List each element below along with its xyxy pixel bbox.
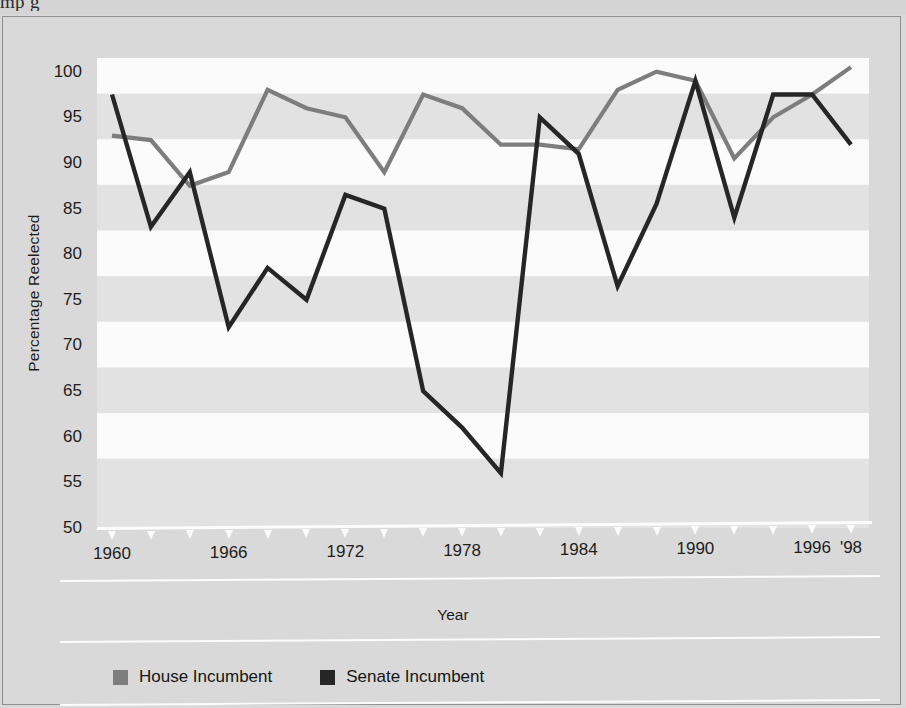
x-tick-mark — [808, 525, 816, 534]
x-tick-mark — [108, 531, 116, 540]
x-tick-mark — [264, 530, 272, 539]
y-tick-label: 85 — [38, 199, 82, 219]
x-tick-mark — [847, 525, 855, 534]
x-tick-mark — [380, 529, 388, 538]
caption-fragment: mp g — [0, 0, 906, 11]
y-axis-title: Percentage Reelected — [25, 83, 43, 503]
legend-item: Senate Incumbent — [320, 667, 484, 687]
x-tick-label: 1972 — [326, 542, 364, 562]
y-tick-label: 50 — [38, 518, 82, 538]
x-tick-mark — [458, 528, 466, 537]
x-tick-label: 1990 — [676, 539, 714, 559]
legend-label: Senate Incumbent — [346, 667, 484, 687]
x-tick-label: '98 — [840, 538, 862, 558]
y-tick-label: 75 — [38, 290, 82, 310]
y-tick-label: 90 — [38, 153, 82, 173]
legend-label: House Incumbent — [139, 667, 272, 687]
figure-container: 10095908580757065605550 Percentage Reele… — [0, 14, 906, 708]
y-tick-label: 65 — [38, 381, 82, 401]
x-tick-label: 1996 — [793, 538, 831, 558]
x-tick-label: 1966 — [210, 543, 248, 563]
x-tick-mark — [691, 526, 699, 535]
x-tick-mark — [730, 526, 738, 535]
x-tick-label: 1960 — [93, 544, 131, 564]
y-tick-label: 100 — [38, 62, 82, 82]
legend-item: House Incumbent — [113, 667, 272, 687]
x-tick-mark — [147, 531, 155, 540]
x-tick-mark — [575, 527, 583, 536]
x-tick-label: 1978 — [443, 541, 481, 561]
x-axis-title: Year — [0, 606, 906, 624]
legend-swatch-icon — [320, 670, 335, 685]
legend-swatch-icon — [113, 670, 128, 685]
x-tick-mark — [419, 528, 427, 537]
x-tick-mark — [769, 526, 777, 535]
y-axis-ticks: 10095908580757065605550 — [0, 58, 906, 528]
x-tick-mark — [302, 529, 310, 538]
y-tick-label: 80 — [38, 244, 82, 264]
x-tick-mark — [653, 527, 661, 536]
x-tick-mark — [497, 528, 505, 537]
y-tick-label: 70 — [38, 335, 82, 355]
y-tick-label: 55 — [38, 472, 82, 492]
x-tick-label: 1984 — [560, 540, 598, 560]
x-tick-mark — [186, 530, 194, 539]
x-tick-mark — [614, 527, 622, 536]
x-tick-mark — [225, 530, 233, 539]
x-tick-mark — [536, 528, 544, 537]
chart-legend: House IncumbentSenate Incumbent — [113, 667, 532, 687]
y-tick-label: 95 — [38, 107, 82, 127]
x-tick-mark — [341, 529, 349, 538]
y-tick-label: 60 — [38, 427, 82, 447]
